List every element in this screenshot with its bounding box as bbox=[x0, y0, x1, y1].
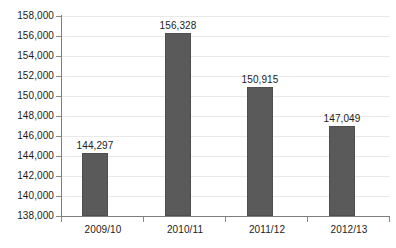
bar-2010-11[interactable] bbox=[165, 33, 191, 216]
y-axis-tick-label: 158,000 bbox=[2, 11, 54, 21]
gridline bbox=[61, 36, 390, 37]
gridline bbox=[61, 16, 390, 17]
y-axis-tick-label: 156,000 bbox=[2, 31, 54, 41]
x-axis-category-label-2012-13: 2012/13 bbox=[308, 224, 390, 235]
y-axis-tick-label: 140,000 bbox=[2, 191, 54, 201]
bar-value-label-2009-10: 144,297 bbox=[55, 140, 135, 151]
y-axis-labels: 158,000 156,000 154,000 152,000 150,000 … bbox=[0, 0, 54, 248]
bar-value-label-2012-13: 147,049 bbox=[302, 113, 382, 124]
gridline bbox=[61, 96, 390, 97]
y-axis-tick-label: 154,000 bbox=[2, 51, 54, 61]
bar-value-label-2011-12: 150,915 bbox=[220, 74, 300, 85]
x-axis-tick-mark bbox=[61, 217, 62, 222]
y-axis-line bbox=[61, 15, 62, 217]
bar-2009-10[interactable] bbox=[82, 153, 108, 216]
bar-chart: 158,000 156,000 154,000 152,000 150,000 … bbox=[0, 0, 396, 248]
y-axis-tick-label: 152,000 bbox=[2, 71, 54, 81]
y-axis-tick-label: 144,000 bbox=[2, 151, 54, 161]
x-axis-tick-mark bbox=[225, 217, 226, 222]
x-axis-category-label-2009-10: 2009/10 bbox=[62, 224, 144, 235]
y-axis-tick-label: 146,000 bbox=[2, 131, 54, 141]
bar-2012-13[interactable] bbox=[329, 126, 355, 216]
x-axis-tick-mark bbox=[389, 217, 390, 222]
x-axis-category-label-2011-12: 2011/12 bbox=[226, 224, 308, 235]
gridline bbox=[61, 56, 390, 57]
bar-2011-12[interactable] bbox=[247, 87, 273, 216]
x-axis-category-label-2010-11: 2010/11 bbox=[144, 224, 226, 235]
y-axis-tick-label: 150,000 bbox=[2, 91, 54, 101]
bar-value-label-2010-11: 156,328 bbox=[138, 20, 218, 31]
x-axis-tick-mark bbox=[307, 217, 308, 222]
x-axis-tick-mark bbox=[143, 217, 144, 222]
y-axis-tick-label: 138,000 bbox=[2, 211, 54, 221]
y-axis-tick-label: 148,000 bbox=[2, 111, 54, 121]
y-axis-tick-label: 142,000 bbox=[2, 171, 54, 181]
